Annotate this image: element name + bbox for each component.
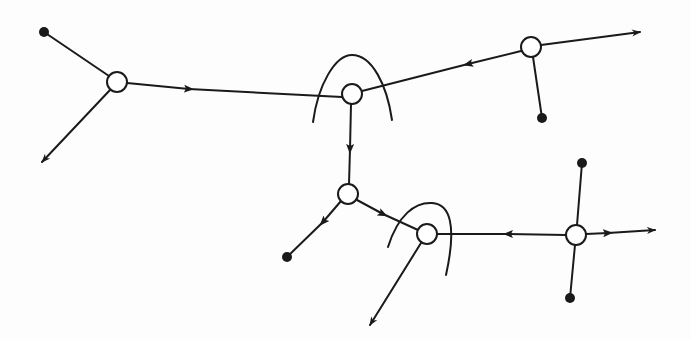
edge-e-out3 <box>370 243 421 325</box>
terminal-dot-1 <box>39 27 49 37</box>
node-f <box>566 225 586 245</box>
edge-c-out2 <box>541 32 640 45</box>
node-a <box>107 72 127 92</box>
edge-c-t2 <box>533 57 542 118</box>
node-d <box>338 184 358 204</box>
terminal-dot-3 <box>282 252 292 262</box>
edge-b-d <box>349 104 351 184</box>
terminal-dot-4 <box>577 158 587 168</box>
edge-f-out4 <box>586 230 655 234</box>
terminal-dot-5 <box>565 293 575 303</box>
edge-f-t5 <box>570 245 575 298</box>
node-c <box>521 37 541 57</box>
diagram-svg <box>0 0 691 340</box>
edge-d-e <box>357 200 418 230</box>
edge-c-b <box>362 51 521 91</box>
edge-t4-f <box>577 163 582 225</box>
edge-f-e <box>437 234 566 235</box>
network-diagram <box>0 0 691 340</box>
node-b <box>342 84 362 104</box>
edge-t1-a <box>44 32 109 76</box>
node-e <box>417 224 437 244</box>
edge-a-out1 <box>42 90 110 162</box>
edge-a-b <box>127 83 342 97</box>
terminal-dot-2 <box>537 113 547 123</box>
edge-d-t3 <box>287 201 341 257</box>
